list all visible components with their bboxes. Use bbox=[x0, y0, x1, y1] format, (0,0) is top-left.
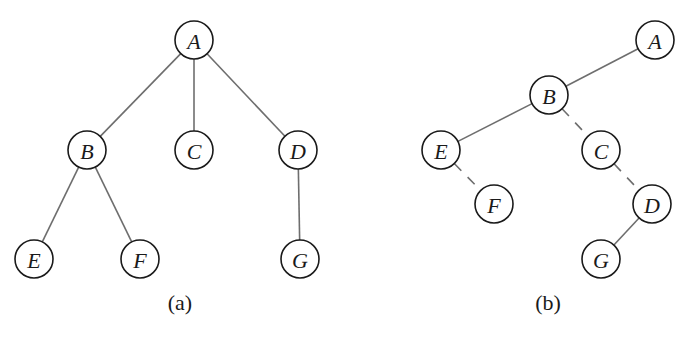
node-label: D bbox=[643, 193, 660, 218]
node-b-D: D bbox=[633, 185, 671, 223]
node-b-B: B bbox=[530, 76, 568, 114]
node-label: C bbox=[594, 139, 609, 164]
node-label: D bbox=[289, 139, 306, 164]
node-b-A: A bbox=[636, 21, 674, 59]
node-label: F bbox=[486, 193, 501, 218]
node-label: A bbox=[185, 29, 201, 54]
node-a-D: D bbox=[279, 131, 317, 169]
edge-a-D-G bbox=[298, 169, 299, 240]
node-label: G bbox=[593, 248, 609, 273]
node-label: C bbox=[187, 139, 202, 164]
edge-b-E-F bbox=[454, 164, 480, 191]
node-a-E: E bbox=[15, 240, 53, 278]
edge-b-C-D bbox=[614, 164, 639, 190]
edge-b-D-G bbox=[614, 218, 639, 245]
edge-a-A-D bbox=[207, 54, 285, 136]
caption-a: (a) bbox=[168, 290, 192, 315]
node-label: B bbox=[542, 84, 555, 109]
node-b-G: G bbox=[582, 240, 620, 278]
node-label: F bbox=[132, 248, 147, 273]
edge-a-B-E bbox=[42, 167, 78, 242]
edge-a-B-F bbox=[95, 167, 131, 242]
node-a-B: B bbox=[68, 131, 106, 169]
node-label: E bbox=[26, 248, 41, 273]
edge-a-A-B bbox=[100, 54, 181, 137]
nodes-layer: ABCDEFGABCDEFG bbox=[15, 21, 674, 278]
node-label: A bbox=[646, 29, 662, 54]
node-a-G: G bbox=[281, 240, 319, 278]
edge-b-A-B bbox=[566, 49, 638, 86]
node-a-C: C bbox=[175, 131, 213, 169]
node-b-C: C bbox=[582, 131, 620, 169]
caption-b: (b) bbox=[535, 290, 561, 315]
edge-b-B-E bbox=[458, 104, 532, 142]
node-b-F: F bbox=[475, 185, 513, 223]
tree-diagram: ABCDEFGABCDEFG (a) (b) bbox=[0, 0, 692, 337]
edge-b-B-C bbox=[562, 109, 588, 136]
node-b-E: E bbox=[422, 131, 460, 169]
node-a-F: F bbox=[121, 240, 159, 278]
node-a-A: A bbox=[175, 21, 213, 59]
captions-layer: (a) (b) bbox=[168, 290, 561, 315]
node-label: E bbox=[433, 139, 448, 164]
node-label: G bbox=[292, 248, 308, 273]
node-label: B bbox=[80, 139, 93, 164]
